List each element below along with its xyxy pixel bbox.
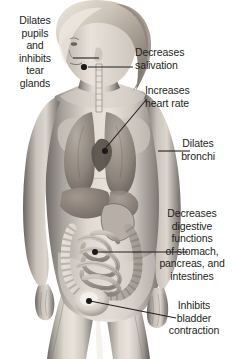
label-dilates-pupils: Dilates pupils and inhibits tear glands (2, 14, 68, 90)
intestines-marker (92, 249, 98, 255)
label-decreases-digestive-functions: Decreases digestive functions of stomach… (146, 207, 238, 283)
leader-heart (104, 100, 146, 150)
label-dilates-bronchi: Dilates bronchi (160, 137, 236, 162)
bladder-marker (86, 298, 92, 304)
label-inhibits-bladder-contraction: Inhibits bladder contraction (150, 299, 238, 337)
label-decreases-salivation: Decreases salivation (135, 46, 235, 71)
organ-markers (81, 64, 108, 304)
anatomy-figure: Dilates pupils and inhibits tear glands … (0, 0, 238, 359)
heart-marker (102, 148, 108, 154)
salivary-gland-marker (81, 64, 87, 70)
label-increases-heart-rate: Increases heart rate (145, 84, 237, 109)
